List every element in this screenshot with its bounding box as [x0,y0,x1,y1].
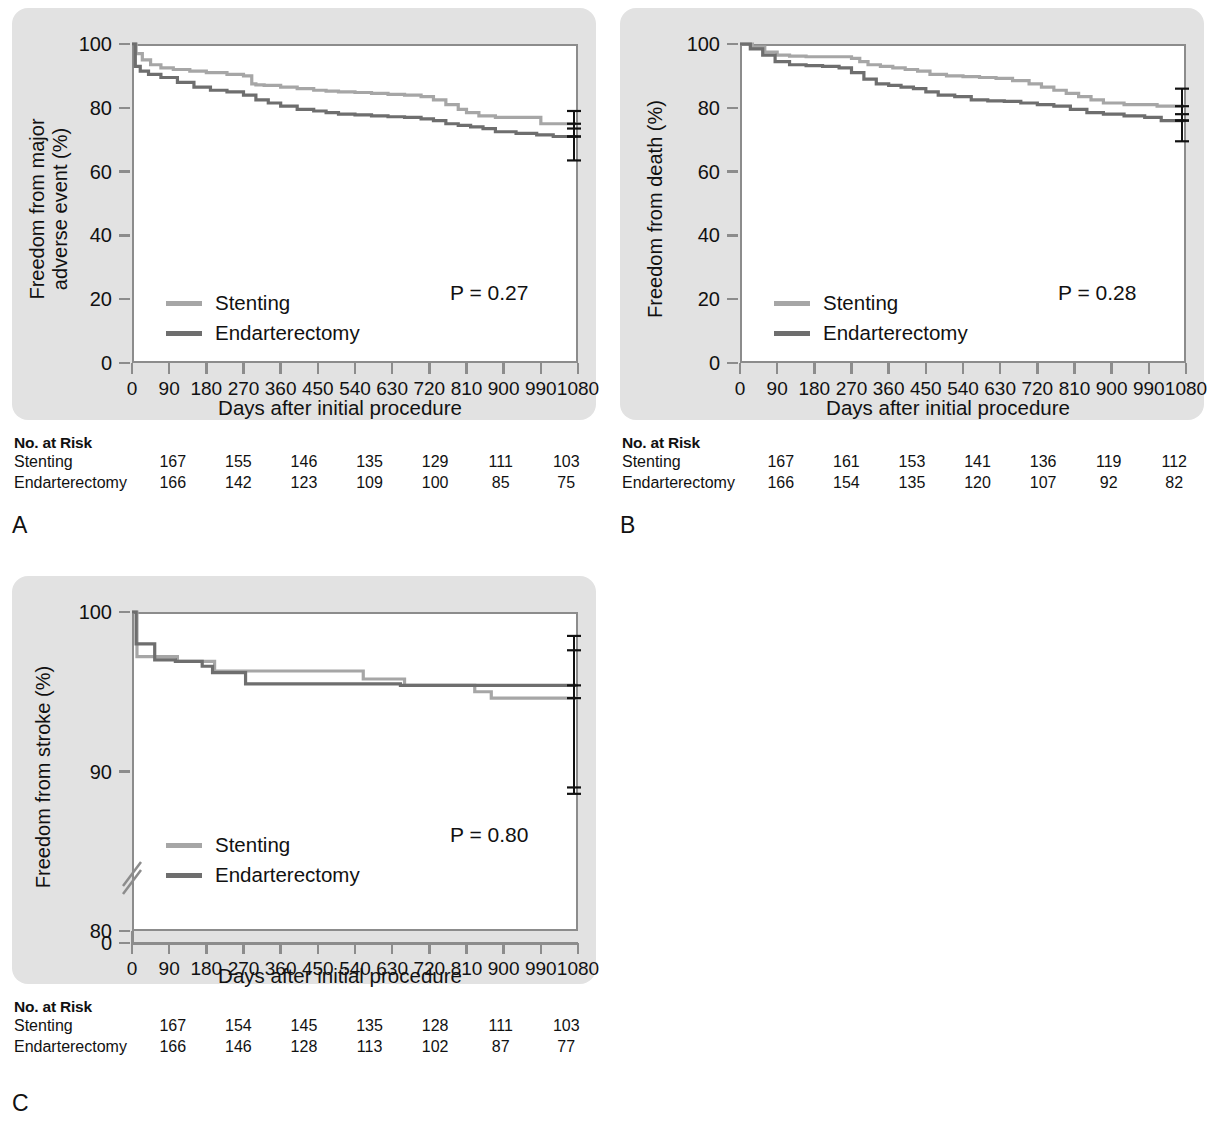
x-tick-mark [205,363,208,374]
risk-cell: 166 [140,474,206,492]
figure-panel-grid: 0204060801000901802703604505406307208109… [0,0,1216,1128]
panel-c-pvalue: P = 0.80 [450,823,528,847]
risk-row-values: 1661541351201079282 [748,474,1207,492]
legend-swatch-stenting [166,843,202,848]
y-tick-mark [727,170,738,173]
risk-cell: 154 [206,1017,272,1035]
x-tick-mark [1036,363,1039,374]
x-tick-mark [168,943,171,954]
panel-b-y-axis-label: Freedom from death (%) [644,44,684,374]
panel-a-x-axis-title: Days after initial procedure [80,396,600,420]
panel-a-risk-table: No. at Risk Stenting16715514613512911110… [14,434,599,495]
risk-row: Stenting167155146135129111103 [14,453,599,474]
y-tick-mark [727,234,738,237]
risk-row-label: Endarterectomy [14,1038,140,1056]
risk-cell: 111 [468,453,534,471]
risk-cell: 87 [468,1038,534,1056]
x-tick-mark [354,943,357,954]
x-tick-mark [577,943,580,954]
x-tick-mark [962,363,965,374]
risk-cell: 92 [1076,474,1142,492]
y-tick-mark [119,611,130,614]
y-axis-break-icon [120,856,146,896]
risk-cell: 103 [533,453,599,471]
x-tick-mark [465,363,468,374]
risk-cell: 154 [814,474,880,492]
panel-c-risk-table: No. at Risk Stenting16715414513512811110… [14,998,599,1059]
x-tick-mark [242,363,245,374]
risk-row-label: Endarterectomy [14,474,140,492]
risk-cell: 113 [337,1038,403,1056]
panel-b: 0204060801000901802703604505406307208109… [608,0,1216,560]
x-tick-mark [317,943,320,954]
x-tick-mark [354,363,357,374]
panel-a-risk-rows: Stenting167155146135129111103Endarterect… [14,453,599,495]
risk-cell: 112 [1141,453,1207,471]
legend-label-endarterectomy: Endarterectomy [215,863,360,887]
y-tick-mark [119,298,130,301]
legend-label-stenting: Stenting [823,291,898,315]
risk-cell: 100 [402,474,468,492]
risk-cell: 146 [206,1038,272,1056]
panel-b-pvalue: P = 0.28 [1058,281,1136,305]
y-tick-mark [727,43,738,46]
legend-swatch-stenting [774,301,810,306]
panel-a-pvalue: P = 0.27 [450,281,528,305]
legend-item-endarterectomy: Endarterectomy [166,318,360,348]
risk-cell: 111 [468,1017,534,1035]
y-tick-mark [119,170,130,173]
panel-a-risk-title: No. at Risk [14,434,599,452]
y-tick-mark [727,107,738,110]
risk-row-values: 167154145135128111103 [140,1017,599,1035]
panel-a-legend: Stenting Endarterectomy [166,288,360,348]
risk-cell: 135 [337,1017,403,1035]
risk-cell: 153 [879,453,945,471]
risk-cell: 85 [468,474,534,492]
panel-b-legend: Stenting Endarterectomy [774,288,968,348]
y-tick-mark [119,942,130,945]
x-tick-mark [925,363,928,374]
x-tick-mark [428,363,431,374]
risk-cell: 167 [748,453,814,471]
panel-c-risk-rows: Stenting167154145135128111103Endarterect… [14,1017,599,1059]
x-tick-mark [1110,363,1113,374]
panel-b-risk-rows: Stenting167161153141136119112Endarterect… [622,453,1207,495]
risk-row: Endarterectomy1661541351201079282 [622,474,1207,495]
risk-row: Endarterectomy1661461281131028777 [14,1038,599,1059]
legend-item-endarterectomy: Endarterectomy [774,318,968,348]
risk-cell: 77 [533,1038,599,1056]
risk-cell: 128 [271,1038,337,1056]
risk-cell: 129 [402,453,468,471]
x-tick-mark [540,943,543,954]
risk-cell: 141 [945,453,1011,471]
panel-a-y-axis-label-line1: Freedom from major [26,44,49,374]
risk-cell: 123 [271,474,337,492]
y-tick-mark [119,930,130,933]
risk-cell: 167 [140,453,206,471]
x-tick-mark [813,363,816,374]
risk-row: Stenting167161153141136119112 [622,453,1207,474]
y-tick-mark [727,362,738,365]
legend-swatch-stenting [166,301,202,306]
x-tick-mark [465,943,468,954]
y-tick-mark [119,43,130,46]
x-tick-mark [739,363,742,374]
risk-cell: 161 [814,453,880,471]
panel-c-letter: C [12,1090,29,1117]
risk-row-label: Stenting [622,453,748,471]
panel-a-y-axis-label-line2: adverse event (%) [49,44,72,374]
risk-row-values: 1661461281131028777 [140,1038,599,1056]
risk-cell: 119 [1076,453,1142,471]
panel-a: 0204060801000901802703604505406307208109… [0,0,608,560]
risk-cell: 107 [1010,474,1076,492]
legend-swatch-endarterectomy [166,873,202,878]
legend-swatch-endarterectomy [166,331,202,336]
x-tick-mark [131,363,134,374]
risk-cell: 136 [1010,453,1076,471]
y-tick-mark [119,234,130,237]
risk-cell: 166 [748,474,814,492]
risk-cell: 102 [402,1038,468,1056]
legend-item-endarterectomy: Endarterectomy [166,860,360,890]
risk-cell: 145 [271,1017,337,1035]
x-tick-mark [205,943,208,954]
